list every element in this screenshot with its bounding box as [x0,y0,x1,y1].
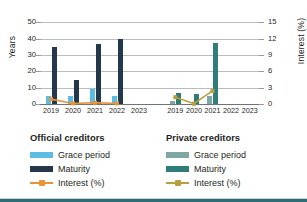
interest-marker [211,89,215,93]
y-tick-label-left: 40 [14,34,36,43]
legend-item[interactable]: Interest (%) [30,176,110,189]
legend-item[interactable]: Maturity [166,162,246,175]
legend-item-label: Maturity [194,164,226,174]
y-tick-label-left: 20 [14,66,36,75]
y-tick-mark-right [259,39,264,40]
interest-marker [93,101,97,105]
legend-official-creditors: Official creditors Grace periodMaturityI… [30,132,110,190]
x-tick-label: 2019 [40,106,62,115]
legend-line-marker-icon [166,179,189,186]
legend-swatch-icon [166,166,189,172]
panel-official-creditors [40,14,150,104]
footer-divider [0,199,307,202]
y-tick-mark-right [259,71,264,72]
y-tick-label-right: 9 [268,50,290,59]
y-axis-title-right: Interest (%) [296,6,306,76]
legend-swatch-icon [30,166,53,172]
interest-marker [71,101,75,105]
y-tick-label-right: 0 [268,99,290,108]
line-interest [166,14,259,106]
plot-area: Years Interest (%) 01020304050 03691215 … [0,0,307,128]
y-tick-label-right: 12 [268,34,290,43]
y-tick-label-right: 3 [268,83,290,92]
y-tick-mark-right [259,104,264,105]
panel-private-creditors [166,14,259,104]
chart-container: Years Interest (%) 01020304050 03691215 … [0,0,307,202]
interest-marker [115,101,119,105]
interest-marker [173,95,177,99]
legend-item[interactable]: Maturity [30,162,110,175]
y-tick-label-left: 30 [14,50,36,59]
legend-item-label: Interest (%) [194,178,241,188]
legend-title-private: Private creditors [166,132,246,143]
legend-item-label: Grace period [58,150,110,160]
legend-private-creditors: Private creditors Grace periodMaturityIn… [166,132,246,190]
legend-title-official: Official creditors [30,132,110,143]
legend-swatch-icon [166,152,189,158]
y-tick-label-left: 0 [14,99,36,108]
y-tick-mark-right [259,22,264,23]
y-tick-label-left: 50 [14,17,36,26]
x-axis-labels-private: 20192020202120222023 [166,106,259,118]
x-tick-label: 2021 [84,106,106,115]
y-tick-mark-right [259,55,264,56]
legend-item-label: Interest (%) [58,178,105,188]
legend-item-label: Maturity [58,164,90,174]
line-interest [40,14,150,106]
legend-item[interactable]: Grace period [166,148,246,161]
legend-item[interactable]: Interest (%) [166,176,246,189]
x-tick-label: 2020 [62,106,84,115]
interest-marker [49,97,53,101]
legend-item-label: Grace period [194,150,246,160]
y-tick-mark-right [259,88,264,89]
x-tick-label: 2022 [106,106,128,115]
legend-item[interactable]: Grace period [30,148,110,161]
y-tick-label-left: 10 [14,83,36,92]
legend-swatch-icon [30,152,53,158]
interest-line-path [51,99,117,103]
y-tick-label-right: 15 [268,17,290,26]
x-tick-label: 2023 [239,106,261,115]
x-tick-label: 2023 [128,106,150,115]
x-axis-labels-official: 20192020202120222023 [40,106,150,118]
legend-line-marker-icon [30,179,53,186]
y-tick-label-right: 6 [268,66,290,75]
